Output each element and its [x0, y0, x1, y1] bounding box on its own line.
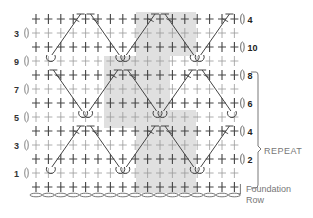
single-crochet-icon: [57, 140, 65, 150]
single-crochet-icon: [82, 98, 90, 108]
chain-stitch-icon: [80, 193, 92, 197]
single-crochet-icon: [206, 112, 214, 122]
single-crochet-icon: [218, 42, 226, 52]
single-crochet-icon: [106, 140, 114, 150]
single-crochet-icon: [57, 84, 65, 94]
single-crochet-icon: [193, 84, 201, 94]
chain-stitch-icon: [216, 193, 228, 197]
row-number-left: 3: [14, 29, 19, 39]
single-crochet-icon: [57, 14, 65, 24]
single-crochet-icon: [206, 14, 214, 24]
single-crochet-icon: [32, 42, 40, 52]
row-number-left: 5: [14, 113, 19, 123]
single-crochet-icon: [44, 70, 52, 80]
row-number-right: 6: [247, 99, 252, 109]
single-crochet-icon: [44, 126, 52, 136]
foundation-label-line1: Foundation: [246, 184, 291, 195]
single-crochet-icon: [69, 70, 77, 80]
single-crochet-icon: [94, 182, 102, 192]
single-crochet-icon: [82, 70, 90, 80]
single-crochet-icon: [94, 154, 102, 164]
single-crochet-icon: [94, 140, 102, 150]
single-crochet-icon: [206, 56, 214, 66]
single-crochet-icon: [94, 42, 102, 52]
single-crochet-icon: [32, 112, 40, 122]
single-crochet-icon: [218, 56, 226, 66]
single-crochet-icon: [44, 112, 52, 122]
single-crochet-icon: [206, 28, 214, 38]
single-crochet-icon: [106, 14, 114, 24]
turning-chain-icon: [241, 42, 245, 52]
foundation-label-line2: Row: [246, 195, 291, 206]
single-crochet-icon: [119, 182, 127, 192]
single-crochet-icon: [57, 168, 65, 178]
single-crochet-icon: [82, 126, 90, 136]
single-crochet-icon: [230, 126, 238, 136]
chain-stitch-icon: [55, 193, 67, 197]
loop-base-icon: [195, 55, 204, 62]
turning-chain-icon: [241, 14, 245, 24]
chain-stitch-icon: [142, 193, 154, 197]
chain-stitch-icon: [191, 193, 203, 197]
chain-stitch-icon: [30, 193, 42, 197]
single-crochet-icon: [44, 84, 52, 94]
single-crochet-icon: [230, 140, 238, 150]
loop-base-icon: [84, 111, 93, 118]
single-crochet-icon: [181, 98, 189, 108]
single-crochet-icon: [119, 140, 127, 150]
single-crochet-icon: [181, 56, 189, 66]
repeat-label: REPEAT: [264, 146, 302, 156]
single-crochet-icon: [218, 84, 226, 94]
single-crochet-icon: [206, 84, 214, 94]
single-crochet-icon: [32, 182, 40, 192]
single-crochet-icon: [82, 28, 90, 38]
single-crochet-icon: [218, 168, 226, 178]
single-crochet-icon: [44, 154, 52, 164]
turning-chain-icon: [25, 28, 29, 38]
single-crochet-icon: [193, 98, 201, 108]
single-crochet-icon: [82, 84, 90, 94]
single-crochet-icon: [119, 42, 127, 52]
single-crochet-icon: [32, 70, 40, 80]
turning-chain-icon: [25, 140, 29, 150]
single-crochet-icon: [230, 56, 238, 66]
single-crochet-icon: [119, 154, 127, 164]
chain-stitch-icon: [42, 193, 54, 197]
chain-stitch-icon: [179, 193, 191, 197]
loop-base-icon: [227, 111, 236, 118]
chain-stitch-icon: [92, 193, 104, 197]
single-crochet-icon: [57, 70, 65, 80]
single-crochet-icon: [119, 28, 127, 38]
single-crochet-icon: [44, 182, 52, 192]
single-crochet-icon: [94, 28, 102, 38]
single-crochet-icon: [94, 168, 102, 178]
row-number-left: 1: [14, 169, 19, 179]
chain-stitch-icon: [166, 193, 178, 197]
row-number-left: 7: [14, 85, 19, 95]
single-crochet-icon: [206, 140, 214, 150]
single-crochet-icon: [44, 140, 52, 150]
chain-stitch-icon: [154, 193, 166, 197]
chain-stitch-icon: [67, 193, 79, 197]
single-crochet-icon: [82, 56, 90, 66]
row-number-right: 10: [247, 43, 257, 53]
single-crochet-icon: [94, 56, 102, 66]
single-crochet-icon: [106, 168, 114, 178]
single-crochet-icon: [230, 84, 238, 94]
single-crochet-icon: [44, 98, 52, 108]
single-crochet-icon: [206, 98, 214, 108]
single-crochet-icon: [69, 56, 77, 66]
loop-base-icon: [46, 167, 55, 174]
turning-chain-icon: [241, 98, 245, 108]
single-crochet-icon: [230, 154, 238, 164]
single-crochet-icon: [230, 70, 238, 80]
single-crochet-icon: [218, 28, 226, 38]
turning-chain-icon: [25, 84, 29, 94]
single-crochet-icon: [94, 126, 102, 136]
single-crochet-icon: [82, 14, 90, 24]
single-crochet-icon: [82, 182, 90, 192]
single-crochet-icon: [32, 84, 40, 94]
turning-chain-icon: [25, 168, 29, 178]
single-crochet-icon: [57, 112, 65, 122]
single-crochet-icon: [57, 126, 65, 136]
